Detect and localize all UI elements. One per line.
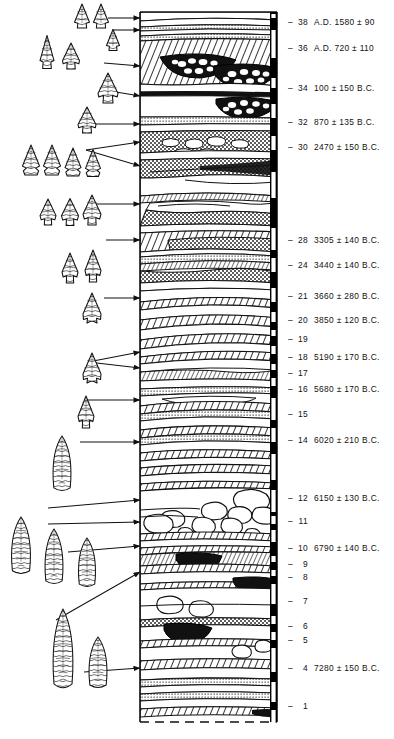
scale-tick-21	[271, 570, 275, 576]
strata-number: 14	[295, 435, 308, 445]
scale-tick-12	[271, 364, 275, 370]
strata-radiocarbon-date: 3850 ± 120 B.C.	[314, 315, 380, 325]
scale-tick-19	[271, 530, 275, 542]
strata-label-12: –126150 ± 130 B.C.	[288, 493, 380, 503]
scale-tick-20	[271, 556, 275, 562]
strata-label-15: –15	[288, 409, 314, 419]
strata-dash: –	[288, 315, 293, 325]
strata-label-16: –165680 ± 170 B.C.	[288, 384, 380, 394]
strata-label-21: –213660 ± 280 B.C.	[288, 291, 380, 301]
strata-number: 15	[295, 409, 308, 419]
strata-dash: –	[288, 621, 293, 631]
strata-label-38: –38A.D. 1580 ± 90	[288, 17, 375, 27]
strata-dash: –	[288, 663, 293, 673]
strata-dash: –	[288, 117, 293, 127]
strata-number: 5	[295, 635, 308, 645]
strata-dash: –	[288, 543, 293, 553]
strata-number: 9	[295, 559, 308, 569]
scale-tick-24	[271, 632, 275, 640]
strata-number: 38	[295, 17, 308, 27]
scale-tick-26	[271, 682, 275, 702]
strata-label-5: –5	[288, 635, 314, 645]
strata-label-10: –106790 ± 140 B.C.	[288, 543, 380, 553]
strata-number: 17	[295, 368, 308, 378]
strata-number: 1	[295, 701, 308, 711]
strata-label-9: –9	[288, 559, 314, 569]
strata-label-24: –243440 ± 140 B.C.	[288, 260, 380, 270]
strata-dash: –	[288, 43, 293, 53]
strata-dash: –	[288, 235, 293, 245]
strata-radiocarbon-date: 2470 ± 150 B.C.	[314, 142, 380, 152]
strata-number: 8	[295, 572, 308, 582]
scale-tick-16	[271, 454, 275, 480]
strata-label-34: –34100 ± 150 B.C.	[288, 83, 375, 93]
strata-radiocarbon-date: 3305 ± 140 B.C.	[314, 235, 380, 245]
strata-dash: –	[288, 83, 293, 93]
strata-radiocarbon-date: 6150 ± 130 B.C.	[314, 493, 380, 503]
scale-tick-9	[271, 312, 275, 322]
scale-tick-11	[271, 346, 275, 354]
strata-number: 28	[295, 235, 308, 245]
scale-tick-22	[271, 584, 275, 604]
strata-dash: –	[288, 516, 293, 526]
scale-tick-4	[271, 136, 275, 150]
strata-number: 16	[295, 384, 308, 394]
strata-number: 24	[295, 260, 308, 270]
strata-radiocarbon-date: 5190 ± 170 B.C.	[314, 352, 380, 362]
strata-label-19: –19	[288, 334, 314, 344]
strata-dash: –	[288, 384, 293, 394]
strata-label-36: –36A.D. 720 ± 110	[288, 43, 374, 53]
strata-dash: –	[288, 572, 293, 582]
strata-dash: –	[288, 368, 293, 378]
strata-number: 11	[295, 516, 308, 526]
strata-radiocarbon-date: A.D. 1580 ± 90	[314, 17, 375, 27]
strata-number: 30	[295, 142, 308, 152]
scale-tick-27	[271, 710, 275, 724]
strata-label-28: –283305 ± 140 B.C.	[288, 235, 380, 245]
strata-label-4: –47280 ± 150 B.C.	[288, 663, 380, 673]
strata-radiocarbon-date: 5680 ± 170 B.C.	[314, 384, 380, 394]
strata-label-11: –11	[288, 516, 314, 526]
scale-tick-10	[271, 330, 275, 336]
scale-tick-18	[271, 516, 275, 524]
strata-number: 21	[295, 291, 308, 301]
strata-dash: –	[288, 559, 293, 569]
strata-dash: –	[288, 291, 293, 301]
strata-number: 18	[295, 352, 308, 362]
scale-tick-0	[271, 14, 275, 18]
scale-tick-2	[271, 78, 275, 88]
strata-dash: –	[288, 435, 293, 445]
strata-radiocarbon-date: 870 ± 135 B.C.	[314, 117, 375, 127]
strata-radiocarbon-date: 3440 ± 140 B.C.	[314, 260, 380, 270]
strata-radiocarbon-date: 6020 ± 210 B.C.	[314, 435, 380, 445]
stratigraphic-column	[140, 12, 278, 722]
strata-number: 32	[295, 117, 308, 127]
stratigraphic-column-figure	[0, 0, 394, 739]
strata-dash: –	[288, 17, 293, 27]
strata-label-14: –146020 ± 210 B.C.	[288, 435, 380, 445]
scale-tick-3	[271, 104, 275, 118]
scale-tick-8	[271, 288, 275, 302]
depth-scale-bar	[270, 12, 277, 724]
strata-radiocarbon-date: 6790 ± 140 B.C.	[314, 543, 380, 553]
strata-number: 36	[295, 43, 308, 53]
strata-number: 10	[295, 543, 308, 553]
scale-tick-23	[271, 616, 275, 624]
scale-tick-13	[271, 378, 275, 386]
strata-radiocarbon-date: 100 ± 150 B.C.	[314, 83, 375, 93]
strata-dash: –	[288, 493, 293, 503]
scale-tick-25	[271, 648, 275, 672]
strata-radiocarbon-date: 3660 ± 280 B.C.	[314, 291, 380, 301]
strata-dash: –	[288, 260, 293, 270]
strata-dash: –	[288, 334, 293, 344]
scale-tick-15	[271, 428, 275, 442]
strata-dash: –	[288, 635, 293, 645]
scale-tick-14	[271, 398, 275, 420]
strata-dash: –	[288, 701, 293, 711]
strata-label-30: –302470 ± 150 B.C.	[288, 142, 380, 152]
strata-radiocarbon-date: A.D. 720 ± 110	[314, 43, 374, 53]
scale-tick-6	[271, 228, 275, 250]
strata-dash: –	[288, 142, 293, 152]
strata-dash: –	[288, 596, 293, 606]
strata-radiocarbon-date: 7280 ± 150 B.C.	[314, 663, 380, 673]
